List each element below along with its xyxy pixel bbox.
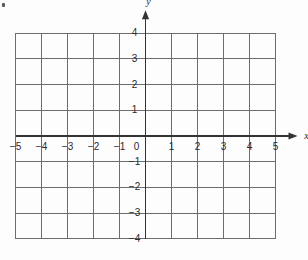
x-tick-label-3: 3 (221, 142, 227, 152)
y-tick-label--1: −1 (129, 157, 140, 167)
x-tick-label--5: −5 (10, 142, 21, 152)
y-tick-label--4: −4 (129, 234, 140, 244)
y-tick-label-1: 1 (132, 105, 138, 115)
y-tick-label-4: 4 (132, 28, 138, 38)
y-axis-label: y (146, 0, 150, 7)
x-tick-label--1: −1 (114, 142, 125, 152)
x-tick-label--2: −2 (88, 142, 99, 152)
y-tick-label-3: 3 (132, 54, 138, 64)
x-axis-arrowhead (289, 132, 298, 139)
axis-arrowheads (142, 10, 298, 139)
x-tick-label-0: 0 (134, 142, 140, 152)
x-tick-label-4: 4 (247, 142, 253, 152)
x-tick-label--4: −4 (36, 142, 47, 152)
coordinate-plane-svg (0, 0, 308, 260)
y-axis-arrowhead (142, 10, 149, 19)
x-tick-label-2: 2 (195, 142, 201, 152)
x-tick-label--3: −3 (62, 142, 73, 152)
y-tick-label-2: 2 (132, 80, 138, 90)
x-tick-label-1: 1 (169, 142, 175, 152)
x-tick-label-5: 5 (273, 142, 279, 152)
coordinate-grid-figure: −5−4−3−2−1012345−4−3−2−11234xy (0, 0, 308, 260)
y-tick-label--2: −2 (129, 182, 140, 192)
axis-lines (16, 15, 293, 239)
x-axis-label: x (304, 131, 308, 141)
y-tick-label--3: −3 (129, 208, 140, 218)
